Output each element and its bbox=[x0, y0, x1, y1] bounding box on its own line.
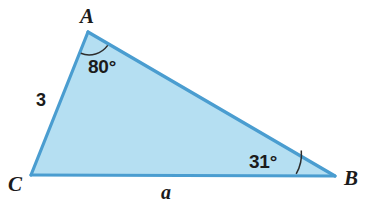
side-length-label-ca: 3 bbox=[36, 91, 46, 109]
triangle-diagram-figure: A B C 3 a 80° 31° bbox=[0, 0, 365, 210]
angle-measure-label-b: 31° bbox=[249, 152, 277, 171]
triangle-drawing bbox=[0, 0, 365, 210]
angle-measure-label-a: 80° bbox=[88, 57, 116, 76]
vertex-label-c: C bbox=[8, 174, 22, 195]
side-a-CB-edge bbox=[31, 175, 335, 176]
vertex-label-b: B bbox=[344, 168, 358, 189]
vertex-label-a: A bbox=[80, 6, 94, 27]
triangle-shape bbox=[31, 32, 335, 176]
side-length-label-cb: a bbox=[161, 182, 171, 202]
